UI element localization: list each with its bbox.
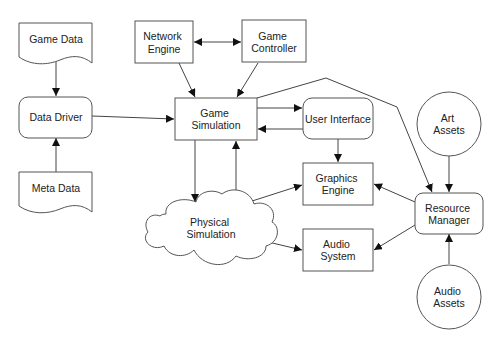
edge-physics-graphics	[249, 185, 302, 202]
node-game-simulation[interactable]: Game Simulation	[175, 98, 257, 140]
edge-resourcemanager-graphics	[374, 184, 415, 202]
rect-shape	[135, 21, 193, 63]
node-network-engine[interactable]: Network Engine	[135, 21, 193, 63]
node-label: Audio System	[320, 238, 355, 262]
node-physical-simulation[interactable]: Physical Simulation	[145, 190, 277, 265]
edge-resourcemanager-audio	[374, 225, 415, 250]
node-label: Meta Data	[32, 182, 81, 194]
node-data-driver[interactable]: Data Driver	[19, 97, 92, 138]
node-label: User Interface	[305, 113, 371, 125]
node-label: Network Engine	[143, 30, 184, 55]
node-game-data[interactable]: Game Data	[19, 23, 92, 64]
node-game-controller[interactable]: Game Controller	[242, 20, 306, 62]
node-art-assets[interactable]: Art Assets	[417, 92, 481, 156]
node-graphics-engine[interactable]: Graphics Engine	[303, 163, 373, 205]
edge-physics-audio	[268, 242, 302, 250]
edge-datadriver-gamesim	[92, 116, 174, 119]
node-audio-system[interactable]: Audio System	[303, 229, 373, 271]
node-label: Game Data	[29, 33, 83, 45]
node-label: Data Driver	[29, 111, 83, 123]
node-label: Resource Manager	[425, 202, 473, 226]
node-label: Physical Simulation	[186, 216, 235, 240]
node-user-interface[interactable]: User Interface	[303, 98, 373, 139]
node-audio-assets[interactable]: Audio Assets	[417, 265, 481, 329]
node-resource-manager[interactable]: Resource Manager	[415, 193, 483, 234]
architecture-diagram: Game Data Data Driver Meta Data Network …	[0, 0, 501, 348]
node-label: Audio Assets	[433, 285, 465, 309]
node-meta-data[interactable]: Meta Data	[19, 172, 92, 213]
node-label: Graphics Engine	[316, 172, 361, 196]
edge-controller-gamesim	[237, 63, 258, 97]
edge-network-gamesim	[179, 63, 195, 97]
